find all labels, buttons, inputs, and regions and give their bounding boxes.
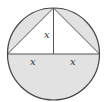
left-base-label: x: [30, 56, 36, 67]
height-label: x: [44, 29, 50, 40]
circle-triangle-diagram: x x x: [0, 0, 109, 102]
right-base-label: x: [70, 56, 76, 67]
